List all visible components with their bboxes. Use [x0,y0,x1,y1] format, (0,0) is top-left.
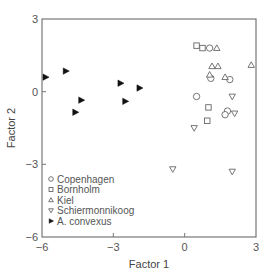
legend-item: Bornholm [49,184,100,195]
series-kiel [206,45,254,80]
square-marker-icon [194,43,199,48]
series-schiermonnikoog [170,94,238,175]
triangle-down-marker-icon [170,167,176,173]
legend-item: Copenhagen [49,174,115,185]
legend-label: Copenhagen [57,174,114,185]
y-tick-label: −3 [25,158,38,170]
triangle-down-marker-icon [231,111,237,117]
triangle-down-marker-icon [229,94,235,100]
circle-marker-icon [193,93,199,99]
triangle-right-marker-icon [73,109,79,115]
legend-label: Schiermonnikoog [57,205,134,216]
triangle-down-marker-icon [229,169,235,175]
triangle-down-marker-icon [191,126,197,132]
x-tick-label: −3 [107,241,120,253]
triangle-right-marker-icon [49,219,53,224]
legend: CopenhagenBornholmKielSchiermonnikoogA. … [49,174,135,227]
triangle-up-marker-icon [209,63,215,69]
square-marker-icon [49,188,53,192]
triangle-right-marker-icon [123,98,129,104]
legend-item: Schiermonnikoog [49,205,135,216]
series-bornholm [194,43,211,124]
triangle-up-marker-icon [248,62,254,68]
data-points [43,43,254,175]
triangle-up-marker-icon [215,63,221,69]
y-axis-label: Factor 2 [5,108,17,148]
triangle-up-marker-icon [206,72,212,78]
triangle-up-marker-icon [49,198,54,202]
triangle-down-marker-icon [49,209,54,213]
x-tick-label: 0 [182,241,188,253]
x-tick-label: 3 [253,241,259,253]
scatter-chart: −6−303−6−303 CopenhagenBornholmKielSchie… [0,0,269,274]
square-marker-icon [200,45,205,50]
triangle-right-marker-icon [43,74,49,80]
triangle-right-marker-icon [118,80,124,86]
triangle-right-marker-icon [63,68,69,74]
triangle-right-marker-icon [137,85,143,91]
square-marker-icon [206,105,211,110]
legend-item: Kiel [49,195,74,206]
triangle-right-marker-icon [79,97,85,103]
y-tick-label: 0 [32,86,38,98]
y-tick-label: 3 [32,13,38,25]
series-a-convexus [43,68,143,116]
legend-label: Kiel [57,195,74,206]
legend-label: A. convexus [57,216,111,227]
x-axis-label: Factor 1 [129,258,169,270]
legend-item: A. convexus [49,216,111,227]
square-marker-icon [205,118,210,123]
y-tick-label: −6 [25,231,38,243]
series-copenhagen [193,45,233,118]
circle-marker-icon [206,45,212,51]
circle-marker-icon [49,177,54,182]
legend-label: Bornholm [57,184,100,195]
triangle-up-marker-icon [222,74,228,80]
circle-marker-icon [222,111,228,117]
triangle-up-marker-icon [214,45,220,51]
